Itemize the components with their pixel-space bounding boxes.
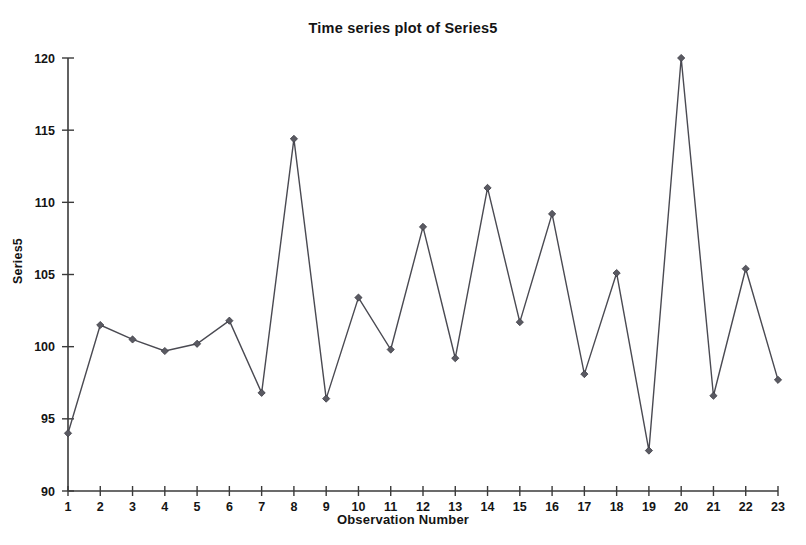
series-polyline bbox=[68, 58, 778, 451]
x-tick-label: 14 bbox=[481, 500, 495, 514]
x-tick-label: 17 bbox=[577, 500, 591, 514]
x-tick-label: 7 bbox=[258, 500, 265, 514]
data-point-marker: Observation Number 10: 103.4 bbox=[355, 294, 362, 301]
data-point-marker: Observation Number 8: 114.4 bbox=[290, 135, 297, 142]
x-tick-label: 12 bbox=[416, 500, 430, 514]
y-tick-label: 100 bbox=[34, 340, 55, 354]
y-tick-label: 95 bbox=[41, 412, 55, 426]
data-point-marker: Observation Number 13: 99.2 bbox=[452, 355, 459, 362]
x-tick-label: 2 bbox=[97, 500, 104, 514]
data-point-marker: Observation Number 4: 99.7 bbox=[161, 347, 168, 354]
x-tick-label: 15 bbox=[513, 500, 527, 514]
x-tick-label: 20 bbox=[674, 500, 688, 514]
data-point-marker: Observation Number 21: 96.6 bbox=[710, 392, 717, 399]
data-point-marker: Observation Number 14: 111 bbox=[484, 184, 491, 191]
data-point-marker: Observation Number 7: 96.8 bbox=[258, 389, 265, 396]
data-point-marker: Observation Number 17: 98.1 bbox=[581, 370, 588, 377]
x-tick-label: 10 bbox=[352, 500, 366, 514]
x-tick-label: 18 bbox=[610, 500, 624, 514]
x-tick-label: 4 bbox=[161, 500, 168, 514]
x-tick-label: 6 bbox=[226, 500, 233, 514]
time-series-chart: Time series plot of Series5 Series5 Obse… bbox=[0, 0, 806, 545]
x-tick-label: 23 bbox=[771, 500, 785, 514]
y-tick-label: 115 bbox=[35, 124, 55, 138]
data-point-marker: Observation Number 2: 101.5 bbox=[97, 321, 104, 328]
x-tick-label: 13 bbox=[448, 500, 462, 514]
x-tick-label: 19 bbox=[642, 500, 656, 514]
x-tick-label: 21 bbox=[707, 500, 721, 514]
x-tick-label: 3 bbox=[129, 500, 136, 514]
plot-area: 9095100105110115120 12345678910111213141… bbox=[0, 0, 806, 545]
y-tick-label: 105 bbox=[34, 268, 55, 282]
y-tick-label: 90 bbox=[41, 485, 55, 499]
x-tick-label: 1 bbox=[65, 500, 72, 514]
x-axis: 1234567891011121314151617181920212223 bbox=[65, 486, 785, 514]
x-tick-label: 5 bbox=[194, 500, 201, 514]
data-point-marker: Observation Number 12: 108.3 bbox=[419, 223, 426, 230]
data-point-marker: Observation Number 11: 99.8 bbox=[387, 346, 394, 353]
x-tick-label: 11 bbox=[384, 500, 397, 514]
data-point-marker: Observation Number 20: 120 bbox=[678, 54, 685, 61]
y-tick-label: 110 bbox=[35, 196, 55, 210]
x-tick-label: 8 bbox=[290, 500, 297, 514]
data-point-marker: Observation Number 1: 94 bbox=[64, 430, 71, 437]
data-point-marker: Observation Number 16: 109.2 bbox=[548, 210, 555, 217]
series-series5: Observation Number 1: 94Observation Numb… bbox=[64, 54, 781, 454]
data-point-marker: Observation Number 19: 92.8 bbox=[645, 447, 652, 454]
x-tick-label: 22 bbox=[739, 500, 753, 514]
data-point-marker: Observation Number 15: 101.7 bbox=[516, 319, 523, 326]
data-point-marker: Observation Number 23: 97.7 bbox=[774, 376, 781, 383]
data-point-marker: Observation Number 3: 100.5 bbox=[129, 336, 136, 343]
x-tick-label: 16 bbox=[545, 500, 559, 514]
data-point-marker: Observation Number 22: 105.4 bbox=[742, 265, 749, 272]
data-point-marker: Observation Number 18: 105.1 bbox=[613, 269, 620, 276]
data-point-marker: Observation Number 9: 96.4 bbox=[323, 395, 330, 402]
x-tick-label: 9 bbox=[323, 500, 330, 514]
y-tick-label: 120 bbox=[34, 52, 55, 66]
